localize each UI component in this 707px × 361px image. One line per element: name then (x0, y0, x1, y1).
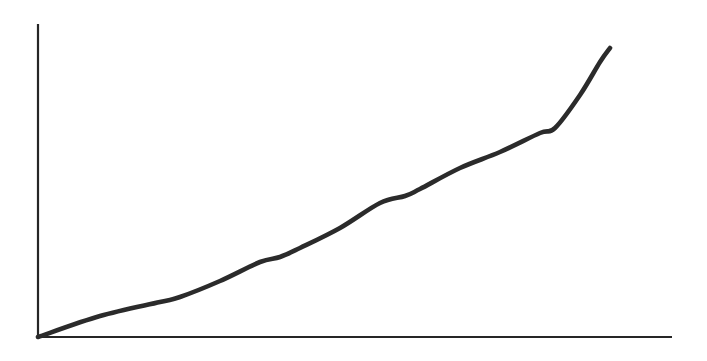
line-graph-figure (0, 0, 707, 361)
plot-background (0, 0, 707, 361)
plot-canvas (0, 0, 707, 361)
